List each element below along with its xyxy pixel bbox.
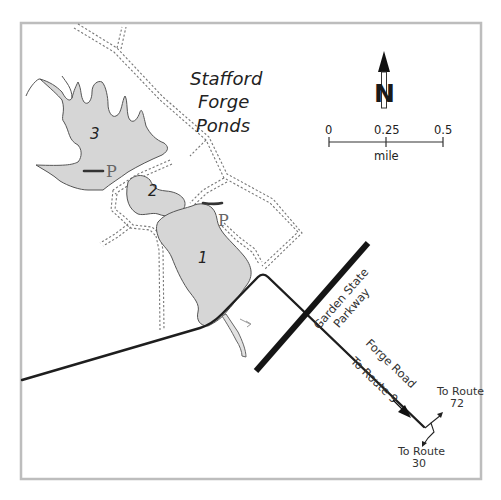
route-junction-arrows-icon (422, 412, 443, 447)
route-30-line2: 30 (412, 457, 426, 470)
scale-unit: mile (374, 149, 399, 163)
north-arrow-icon: N (374, 51, 395, 108)
pond-3-label: 3 (90, 125, 100, 143)
title-line-1: Stafford (190, 68, 263, 89)
pond-2-label: 2 (148, 182, 158, 200)
route-72-line2: 72 (450, 397, 464, 410)
pond-3-shoreline (26, 79, 40, 96)
stafford-forge-ponds-map: P P 3 2 1 Stafford Forge Ponds N 0 0.25 … (0, 0, 501, 500)
map-title: Stafford Forge Ponds (190, 68, 263, 136)
pond-3 (36, 79, 168, 190)
flow-arrowhead-icon (246, 321, 251, 327)
parkway-label: Garden State Parkway (311, 265, 382, 341)
parking-label-north: P (106, 162, 117, 181)
route-9-arrow-icon (393, 400, 411, 418)
scale-tick-0: 0 (325, 123, 332, 137)
scale-tick-025: 0.25 (374, 123, 400, 137)
scale-bar: 0 0.25 0.5 mile (325, 123, 452, 163)
flow-arrow-icon (240, 319, 250, 324)
compass-letter: N (374, 79, 395, 108)
scale-tick-05: 0.5 (434, 123, 452, 137)
parking-bar-east (203, 203, 222, 204)
pond-1-label: 1 (198, 249, 208, 267)
parking-label-east: P (218, 211, 229, 230)
route-30-label: To Route 30 (397, 445, 445, 470)
route-72-label: To Route 72 (436, 385, 484, 410)
title-line-3: Ponds (196, 115, 250, 136)
title-line-2: Forge (198, 91, 249, 112)
